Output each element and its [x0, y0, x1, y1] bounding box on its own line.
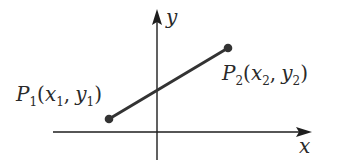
coordinate-diagram: y x P1(x1,y1) P2(x2,y2): [0, 0, 340, 166]
x-axis-label: x: [299, 134, 310, 158]
line-segment-p1-p2: [109, 48, 228, 119]
point-p1: [105, 115, 114, 124]
point-p2-label: P2(x2,y2): [221, 61, 308, 88]
x-axis: [53, 127, 312, 137]
point-p1-label: P1(x1,y1): [15, 82, 102, 109]
point-p2: [224, 44, 233, 53]
y-axis-label: y: [165, 5, 178, 29]
y-axis: [152, 9, 162, 160]
